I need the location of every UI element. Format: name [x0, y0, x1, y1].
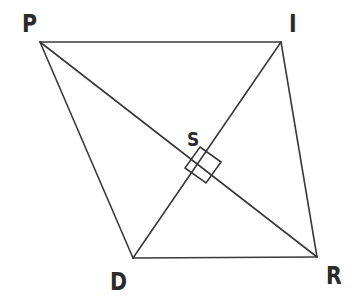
quadrilateral-diagonals — [40, 42, 317, 258]
vertex-label-p: P — [22, 11, 37, 36]
diagonal-i-d — [133, 42, 281, 258]
figure-canvas — [0, 0, 358, 301]
side-d-p — [40, 42, 133, 258]
vertex-label-d: D — [110, 269, 127, 294]
point-label-s: S — [187, 129, 199, 149]
vertex-label-r: R — [326, 263, 341, 288]
geometry-figure: P I D R S — [0, 0, 358, 301]
side-i-r — [281, 42, 317, 257]
side-r-d — [133, 257, 317, 258]
vertex-label-i: I — [289, 11, 296, 36]
diagonal-p-r — [40, 42, 317, 257]
